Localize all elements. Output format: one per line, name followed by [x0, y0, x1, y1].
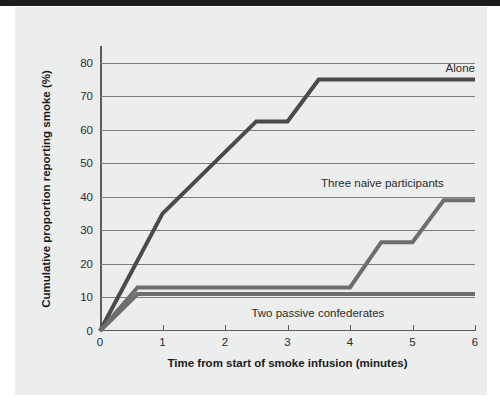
x-tick-mark [475, 325, 476, 331]
figure-panel: 01020304050607080 0123456 AloneThree nai… [15, 7, 487, 395]
x-tick-label: 1 [159, 336, 165, 348]
x-tick-label: 4 [347, 336, 353, 348]
figure-container: 01020304050607080 0123456 AloneThree nai… [0, 0, 500, 416]
plot-area: 01020304050607080 0123456 AloneThree nai… [100, 46, 475, 331]
series-label: Three naive participants [321, 177, 444, 189]
x-axis-label: Time from start of smoke infusion (minut… [167, 357, 407, 369]
y-tick-label: 70 [80, 90, 93, 102]
page-top-edge-bar [0, 0, 500, 6]
x-tick-label: 3 [284, 336, 290, 348]
x-tick-label: 0 [97, 336, 103, 348]
y-tick-label: 10 [80, 291, 93, 303]
y-tick-label: 60 [80, 124, 93, 136]
y-axis-label: Cumulative proportion reporting smoke (%… [40, 70, 52, 308]
y-tick-label: 30 [80, 224, 93, 236]
y-tick-label: 80 [80, 57, 93, 69]
y-tick-label: 0 [87, 325, 93, 337]
series-label: Alone [446, 62, 475, 74]
y-tick-label: 20 [80, 258, 93, 270]
series-label: Two passive confederates [251, 307, 384, 319]
x-tick-label: 5 [409, 336, 415, 348]
x-tick-label: 6 [472, 336, 478, 348]
x-tick-label: 2 [222, 336, 228, 348]
y-tick-label: 50 [80, 157, 93, 169]
y-tick-label: 40 [80, 191, 93, 203]
